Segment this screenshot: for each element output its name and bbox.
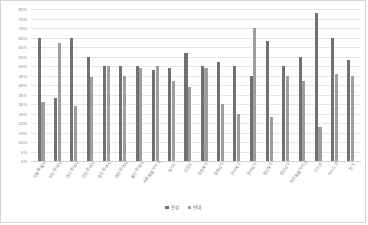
bar bbox=[315, 13, 318, 161]
bar bbox=[233, 66, 236, 161]
x-axis-tick-label: 충청북도 bbox=[197, 161, 210, 177]
bar bbox=[270, 117, 273, 161]
bar bbox=[58, 43, 61, 161]
bar-group bbox=[294, 9, 310, 161]
bar-group bbox=[66, 9, 82, 161]
legend-item[interactable]: 찬성 bbox=[165, 205, 178, 210]
x-axis-tick: 경상북도 bbox=[261, 162, 277, 206]
bar-group bbox=[180, 9, 196, 161]
bar-group bbox=[277, 9, 293, 161]
x-axis-tick: 부산광역시 bbox=[49, 162, 65, 206]
bar-group bbox=[310, 9, 326, 161]
bar-group bbox=[82, 9, 98, 161]
y-axis-tick-label: 30% bbox=[19, 102, 28, 107]
y-axis-tick-label: 70% bbox=[19, 26, 28, 31]
bar bbox=[335, 74, 338, 161]
x-axis-tick: 충청북도 bbox=[196, 162, 212, 206]
x-axis-tick-label: 경기도 bbox=[166, 161, 177, 173]
bar-group bbox=[261, 9, 277, 161]
bar bbox=[156, 66, 159, 161]
x-axis-tick: 충청남도 bbox=[212, 162, 228, 206]
x-axis-tick-label: 전국 bbox=[347, 162, 356, 171]
bar bbox=[184, 53, 187, 161]
bar bbox=[38, 38, 41, 162]
y-axis-tick-label: 25% bbox=[19, 111, 28, 116]
x-axis-tick-label: 비수도권 bbox=[327, 161, 340, 177]
x-axis-tick: 세종특별자치시 bbox=[147, 162, 163, 206]
bar bbox=[201, 66, 204, 161]
bar-group bbox=[212, 9, 228, 161]
bar bbox=[286, 76, 289, 162]
x-axis-tick-label: 부산광역시 bbox=[48, 160, 63, 179]
y-axis-tick-label: 40% bbox=[19, 83, 28, 88]
x-axis-tick: 대전광역시 bbox=[114, 162, 130, 206]
bar-group bbox=[49, 9, 65, 161]
bar bbox=[90, 77, 93, 161]
y-axis-tick-label: 65% bbox=[19, 35, 28, 40]
bar bbox=[136, 66, 139, 161]
y-axis-tick-label: 50% bbox=[19, 64, 28, 69]
y-axis-tick-label: 15% bbox=[19, 130, 28, 135]
y-axis-tick-label: 20% bbox=[19, 121, 28, 126]
bar bbox=[299, 57, 302, 162]
bar bbox=[282, 66, 285, 161]
x-axis-tick-label: 대전광역시 bbox=[113, 160, 128, 179]
bar bbox=[74, 106, 77, 161]
legend-swatch-icon bbox=[188, 206, 191, 209]
bar bbox=[172, 81, 175, 161]
x-axis-tick: 서울특별시 bbox=[33, 162, 49, 206]
legend-label: 찬성 bbox=[171, 205, 179, 210]
x-axis-tick: 광주광역시 bbox=[98, 162, 114, 206]
bar bbox=[123, 76, 126, 162]
bar bbox=[221, 104, 224, 161]
bar bbox=[139, 68, 142, 161]
bar-group bbox=[131, 9, 147, 161]
bar bbox=[351, 76, 354, 162]
bar bbox=[250, 76, 253, 162]
bar bbox=[168, 68, 171, 161]
x-axis-tick: 강원도 bbox=[180, 162, 196, 206]
x-axis-tick-label: 대구광역시 bbox=[64, 160, 79, 179]
bar-group bbox=[326, 9, 342, 161]
bar bbox=[253, 28, 256, 161]
bar bbox=[70, 38, 73, 162]
bar bbox=[107, 66, 110, 161]
bar bbox=[347, 60, 350, 161]
bar bbox=[237, 114, 240, 162]
x-axis-tick: 비수도권 bbox=[326, 162, 342, 206]
bar bbox=[41, 102, 44, 161]
bar bbox=[318, 127, 321, 161]
x-axis-tick-label: 강원도 bbox=[182, 161, 193, 173]
x-axis-tick: 제주특별자치도 bbox=[294, 162, 310, 206]
legend-swatch-icon bbox=[165, 206, 168, 209]
bar-group bbox=[196, 9, 212, 161]
x-axis-tick-label: 경상북도 bbox=[262, 161, 275, 177]
x-axis-tick: 인천광역시 bbox=[82, 162, 98, 206]
bar-groups bbox=[31, 9, 361, 161]
y-axis-tick-label: 5% bbox=[21, 149, 27, 154]
bar-group bbox=[33, 9, 49, 161]
bar-group bbox=[147, 9, 163, 161]
x-axis-tick: 전라남도 bbox=[245, 162, 261, 206]
x-axis-tick-label: 수도권 bbox=[313, 161, 324, 173]
y-axis-tick-label: 75% bbox=[19, 16, 28, 21]
x-axis-tick-label: 충청남도 bbox=[213, 161, 226, 177]
bar-group bbox=[114, 9, 130, 161]
legend-label: 반대 bbox=[193, 205, 201, 210]
x-axis-tick-label: 광주광역시 bbox=[97, 160, 112, 179]
bar-group bbox=[245, 9, 261, 161]
y-axis-tick-label: 35% bbox=[19, 92, 28, 97]
x-axis-tick: 경기도 bbox=[163, 162, 179, 206]
y-axis-tick-label: 60% bbox=[19, 45, 28, 50]
x-axis-tick-label: 전라북도 bbox=[229, 161, 242, 177]
bar bbox=[204, 68, 207, 161]
bar bbox=[54, 98, 57, 161]
bar bbox=[188, 87, 191, 161]
y-axis-tick-label: 45% bbox=[19, 73, 28, 78]
bar-group bbox=[229, 9, 245, 161]
x-axis-tick-label: 인천광역시 bbox=[81, 160, 96, 179]
legend-item[interactable]: 반대 bbox=[188, 205, 201, 210]
y-axis-tick-label: 80% bbox=[19, 7, 28, 12]
bar bbox=[103, 66, 106, 161]
y-axis: 80%75%70%65%60%55%50%45%40%35%30%25%20%1… bbox=[1, 9, 29, 161]
